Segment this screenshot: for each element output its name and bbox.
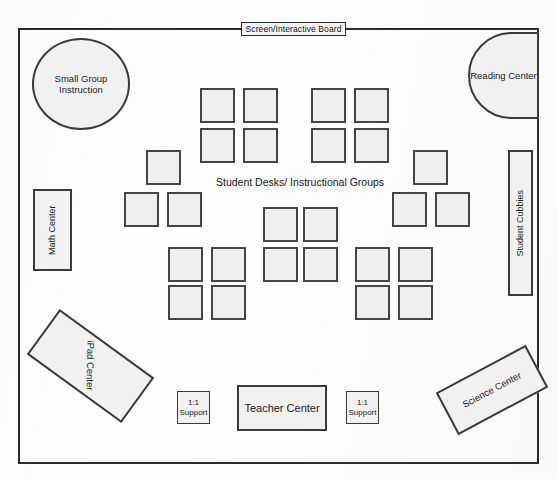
math-center-zone: Math Center bbox=[33, 189, 72, 271]
student-desk bbox=[211, 285, 246, 320]
ipad-center-label: iPad Center bbox=[84, 341, 96, 391]
support-right-label: 1:1 Support bbox=[347, 398, 378, 418]
student-cubbies-label: Student Cubbies bbox=[515, 190, 526, 257]
reading-center-label: Reading Center bbox=[470, 70, 537, 81]
student-desk bbox=[435, 192, 470, 227]
support-left-zone: 1:1 Support bbox=[177, 391, 210, 424]
student-desk bbox=[263, 207, 298, 242]
student-desk bbox=[243, 128, 278, 163]
screen-interactive-board: Screen/Interactive Board bbox=[241, 22, 346, 36]
student-desk bbox=[311, 88, 346, 123]
student-desk bbox=[354, 88, 389, 123]
student-desk bbox=[167, 192, 202, 227]
student-desk bbox=[311, 128, 346, 163]
student-desk bbox=[398, 247, 433, 282]
student-desk bbox=[263, 247, 298, 282]
student-cubbies-zone: Student Cubbies bbox=[508, 150, 533, 296]
student-desk bbox=[211, 247, 246, 282]
science-center-label: Science Center bbox=[461, 370, 524, 410]
support-left-label: 1:1 Support bbox=[178, 398, 209, 418]
student-desk bbox=[354, 128, 389, 163]
student-desk bbox=[243, 88, 278, 123]
student-desk bbox=[168, 247, 203, 282]
teacher-center-label: Teacher Center bbox=[244, 402, 319, 415]
student-desk bbox=[355, 247, 390, 282]
small-group-instruction-label: Small Group Instruction bbox=[34, 73, 128, 95]
student-desk bbox=[303, 247, 338, 282]
student-desk bbox=[200, 88, 235, 123]
student-desk bbox=[355, 285, 390, 320]
student-desk bbox=[413, 150, 448, 185]
student-desk bbox=[168, 285, 203, 320]
teacher-center-zone: Teacher Center bbox=[237, 385, 327, 431]
student-desk bbox=[303, 207, 338, 242]
student-desk bbox=[398, 285, 433, 320]
math-center-label: Math Center bbox=[47, 205, 58, 255]
classroom-floorplan-diagram: Screen/Interactive Board Small Group Ins… bbox=[0, 0, 557, 479]
student-desks-caption: Student Desks/ Instructional Groups bbox=[216, 176, 384, 188]
student-desk bbox=[392, 192, 427, 227]
support-right-zone: 1:1 Support bbox=[346, 391, 379, 424]
student-desk bbox=[146, 150, 181, 185]
small-group-instruction-zone: Small Group Instruction bbox=[32, 38, 130, 130]
student-desk bbox=[200, 128, 235, 163]
student-desk bbox=[124, 192, 159, 227]
